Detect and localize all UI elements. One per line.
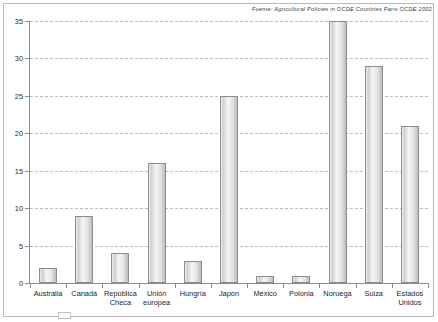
x-tick-mark (30, 283, 31, 288)
legend (58, 312, 75, 319)
legend-swatch (58, 312, 71, 319)
x-axis-label: Estados Unidos (387, 290, 433, 307)
y-tick-label: 35 (15, 17, 23, 26)
bar (184, 261, 202, 283)
x-tick-mark (319, 283, 320, 288)
y-tick-label: 15 (15, 166, 23, 175)
y-tick-mark (25, 58, 30, 59)
y-tick-mark (25, 208, 30, 209)
bar (292, 276, 310, 283)
bar (401, 126, 419, 283)
gridline-35 (30, 21, 428, 22)
source-note: Fuente: Agricultural Policies in OCDE Co… (252, 6, 432, 12)
bar (111, 253, 129, 283)
bar (365, 66, 383, 283)
bar (39, 268, 57, 283)
x-tick-mark (392, 283, 393, 288)
x-tick-mark (139, 283, 140, 288)
bar (329, 21, 347, 283)
y-tick-mark (25, 246, 30, 247)
bar (148, 163, 166, 283)
chart-figure: Fuente: Agricultural Policies in OCDE Co… (0, 0, 438, 322)
x-tick-mark (356, 283, 357, 288)
x-axis-line (29, 283, 428, 284)
y-tick-label: 25 (15, 91, 23, 100)
bar (220, 96, 238, 283)
y-tick-mark (25, 171, 30, 172)
plot-area (30, 21, 428, 283)
x-tick-mark (66, 283, 67, 288)
y-tick-mark (25, 96, 30, 97)
x-tick-mark (283, 283, 284, 288)
y-tick-mark (25, 133, 30, 134)
gridline-30 (30, 58, 428, 59)
bar (75, 216, 93, 283)
bar (256, 276, 274, 283)
y-tick-label: 0 (19, 279, 23, 288)
y-tick-label: 10 (15, 204, 23, 213)
x-tick-mark (247, 283, 248, 288)
x-tick-mark (211, 283, 212, 288)
x-tick-mark (175, 283, 176, 288)
y-tick-mark (25, 21, 30, 22)
x-tick-mark (102, 283, 103, 288)
y-tick-label: 5 (19, 241, 23, 250)
y-tick-label: 20 (15, 129, 23, 138)
x-tick-mark (428, 283, 429, 288)
y-tick-label: 30 (15, 54, 23, 63)
